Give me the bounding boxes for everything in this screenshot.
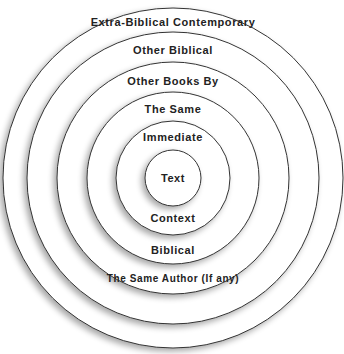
label-the-same-top: The Same [145,103,202,115]
label-other-biblical: Other Biblical [133,44,213,56]
label-same-author-bottom: The Same Author (If any) [107,273,239,284]
label-context-bottom: Context [150,212,195,224]
label-extra-biblical: Extra-Biblical Contemporary [91,16,256,28]
label-biblical-bottom: Biblical [151,244,195,256]
label-other-books-top: Other Books By [127,75,219,87]
label-immediate-top: Immediate [143,131,203,143]
label-text: Text [161,172,185,184]
concentric-circles-diagram: Extra-Biblical Contemporary Other Biblic… [0,0,344,354]
